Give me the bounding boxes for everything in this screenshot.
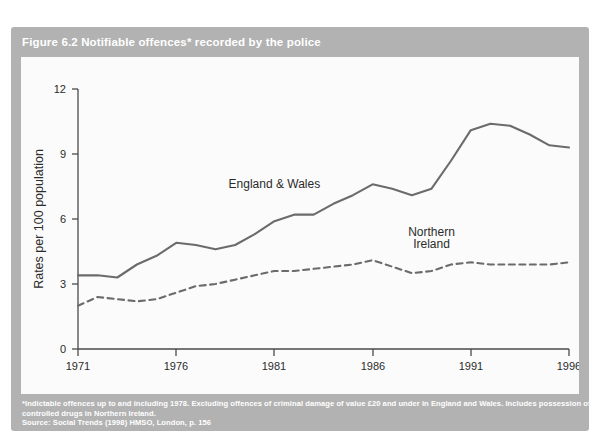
figure-root: Figure 6.2 Notifiable offences* recorded… [0,0,602,435]
series-line-northern-ireland [78,260,569,306]
y-axis-title: Rates per 100 population [32,149,46,289]
chart-panel: 12 9 6 3 0 1971 19 [21,57,579,394]
x-tick-label-1981: 1981 [262,360,286,372]
footnote-line-1: *Indictable offences up to and including… [22,399,582,409]
y-axis-tick-labels: 12 9 6 3 0 [54,83,66,355]
line-chart: 12 9 6 3 0 1971 19 [21,57,579,394]
y-tick-label-9: 9 [60,148,66,160]
x-axis-ticks [78,349,569,356]
series-label-ireland: Ireland [413,237,450,251]
series-line-england-wales [78,124,569,278]
x-axis-tick-labels: 1971 1976 1981 1986 1991 1996 [66,360,579,372]
x-tick-label-1971: 1971 [66,360,90,372]
x-tick-label-1991: 1991 [459,360,483,372]
y-tick-label-6: 6 [60,213,66,225]
y-axis-ticks [72,89,78,349]
x-tick-label-1976: 1976 [164,360,188,372]
footnote-line-2: controlled drugs in Northern Ireland. [22,409,582,419]
x-tick-label-1996: 1996 [557,360,579,372]
chart-axes [78,89,569,349]
y-tick-label-3: 3 [60,278,66,290]
footnote-source: Source: Social Trends (1998) HMSO, Londo… [22,418,582,428]
y-tick-label-12: 12 [54,83,66,95]
page-title: Figure 6.2 Notifiable offences* recorded… [22,32,578,52]
figure-footnote: *Indictable offences up to and including… [22,399,582,428]
x-tick-label-1986: 1986 [361,360,385,372]
figure-card: Figure 6.2 Notifiable offences* recorded… [11,27,589,431]
y-tick-label-0: 0 [60,343,66,355]
series-label-england-wales: England & Wales [229,177,321,191]
